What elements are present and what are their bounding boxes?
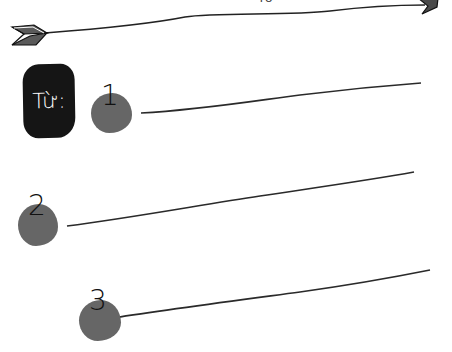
word-label-text: Từ: <box>32 89 65 114</box>
arrowhead-icon <box>418 0 438 14</box>
arrow-fletching-icon <box>12 25 47 45</box>
worksheet-canvas: TỪ Từ: 1 2 3 <box>0 0 452 352</box>
answer-line-1 <box>141 83 421 113</box>
item-number-1: 1 <box>101 82 119 110</box>
arrow-decoration <box>0 0 452 352</box>
item-number-2: 2 <box>28 192 46 220</box>
item-number-3: 3 <box>89 287 107 315</box>
answer-line-2 <box>67 172 414 226</box>
answer-line-3 <box>113 270 430 318</box>
word-label-badge: Từ: <box>22 64 75 139</box>
